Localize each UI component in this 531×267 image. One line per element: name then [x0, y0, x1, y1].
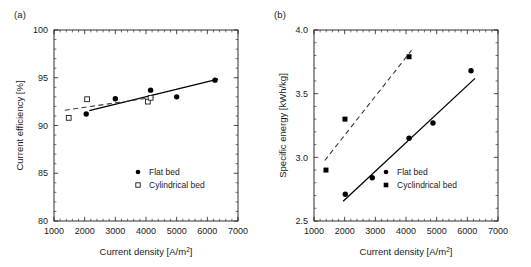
figure-root: (a) 100020003000400050006000700080859095…: [0, 0, 531, 267]
legend-marker: [136, 183, 140, 187]
legend-label: Cylindrical bed: [149, 180, 205, 190]
legend-marker: [384, 170, 389, 175]
panel-b: (b) 10002000300040005000600070002.53.03.…: [266, 0, 531, 267]
x-tick-label: 6000: [197, 226, 217, 236]
y-tick-label: 85: [38, 168, 48, 178]
data-point: [66, 115, 71, 120]
x-tick-label: 3000: [365, 226, 385, 236]
trend-line: [89, 79, 218, 111]
data-point: [85, 97, 90, 102]
data-point: [468, 68, 473, 73]
data-point: [407, 54, 412, 59]
data-point: [84, 111, 89, 116]
data-point: [343, 192, 348, 197]
y-axis-title: Specific energy [kWh/kg]: [277, 73, 288, 178]
trend-line: [325, 50, 412, 160]
data-point: [323, 168, 328, 173]
data-point: [430, 120, 435, 125]
legend-marker: [384, 183, 389, 188]
x-tick-label: 5000: [167, 226, 187, 236]
x-tick-label: 6000: [457, 226, 477, 236]
legend-label: Flat bed: [149, 167, 180, 177]
legend-marker: [136, 170, 141, 175]
data-point: [212, 77, 217, 82]
data-point: [406, 136, 411, 141]
y-tick-label: 95: [38, 73, 48, 83]
x-tick-label: 2000: [335, 226, 355, 236]
data-point: [148, 87, 153, 92]
y-tick-label: 90: [38, 121, 48, 131]
panel-a-plot: 100020003000400050006000700080859095100C…: [0, 0, 265, 267]
y-tick-label: 2.5: [295, 216, 308, 226]
y-tick-label: 3.5: [295, 89, 308, 99]
x-tick-label: 5000: [427, 226, 447, 236]
x-axis-title: Current density [A/m2]: [360, 246, 453, 257]
x-tick-label: 3000: [105, 226, 125, 236]
x-tick-label: 2000: [75, 226, 95, 236]
data-point: [174, 94, 179, 99]
y-tick-label: 3.0: [295, 153, 308, 163]
y-tick-label: 80: [38, 216, 48, 226]
x-tick-label: 7000: [228, 226, 248, 236]
x-tick-label: 7000: [488, 226, 508, 236]
y-tick-label: 100: [33, 25, 48, 35]
x-tick-label: 4000: [136, 226, 156, 236]
x-axis-title: Current density [A/m2]: [100, 246, 193, 257]
data-point: [113, 96, 118, 101]
y-tick-label: 4.0: [295, 25, 308, 35]
legend-label: Cyclindrical bed: [397, 180, 457, 190]
panel-a: (a) 100020003000400050006000700080859095…: [0, 0, 265, 267]
x-tick-label: 1000: [44, 226, 64, 236]
x-tick-label: 1000: [304, 226, 324, 236]
data-point: [342, 117, 347, 122]
data-point: [370, 175, 375, 180]
x-tick-label: 4000: [396, 226, 416, 236]
y-axis-title: Current efficiency [%]: [14, 80, 25, 170]
panel-b-plot: 10002000300040005000600070002.53.03.54.0…: [266, 0, 531, 267]
legend-label: Flat bed: [397, 167, 428, 177]
trend-line: [65, 97, 154, 110]
data-point: [148, 95, 153, 100]
